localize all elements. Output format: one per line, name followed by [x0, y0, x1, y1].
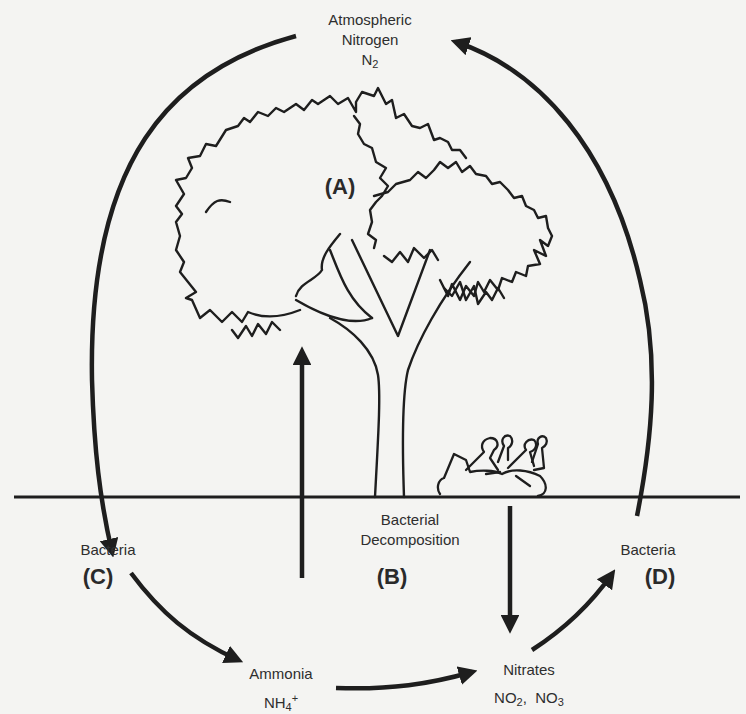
arrow-ammonia-to-nitrates	[336, 672, 472, 688]
atmospheric-line2: Nitrogen	[290, 30, 450, 50]
arrow-nitrates-to-bacteria-d	[532, 574, 612, 650]
tag-b: (B)	[362, 564, 422, 590]
bacterial-decomposition-label: Bacterial Decomposition	[340, 510, 480, 550]
bacteria-right-label: Bacteria	[598, 540, 698, 560]
dead-animal-illustration	[438, 436, 547, 496]
tag-c: (C)	[68, 564, 128, 590]
ammonia-label: Ammonia NH4+	[236, 664, 326, 714]
tag-a: (A)	[310, 174, 370, 200]
atmospheric-line1: Atmospheric	[290, 10, 450, 30]
tag-d: (D)	[630, 564, 690, 590]
atmospheric-formula: N2	[290, 50, 450, 74]
bacteria-left-label: Bacteria	[58, 540, 158, 560]
atmospheric-nitrogen-label: Atmospheric Nitrogen N2	[290, 10, 450, 74]
nitrates-formula: NO2, NO3	[474, 688, 584, 712]
arrow-bacteria-d-to-atmosphere	[456, 42, 652, 516]
nitrogen-cycle-diagram	[0, 0, 746, 714]
nitrates-label: Nitrates NO2, NO3	[474, 660, 584, 712]
arrow-bacteria-c-to-ammonia	[131, 573, 238, 660]
ammonia-formula: NH4+	[236, 688, 326, 714]
tree-illustration	[176, 88, 552, 497]
